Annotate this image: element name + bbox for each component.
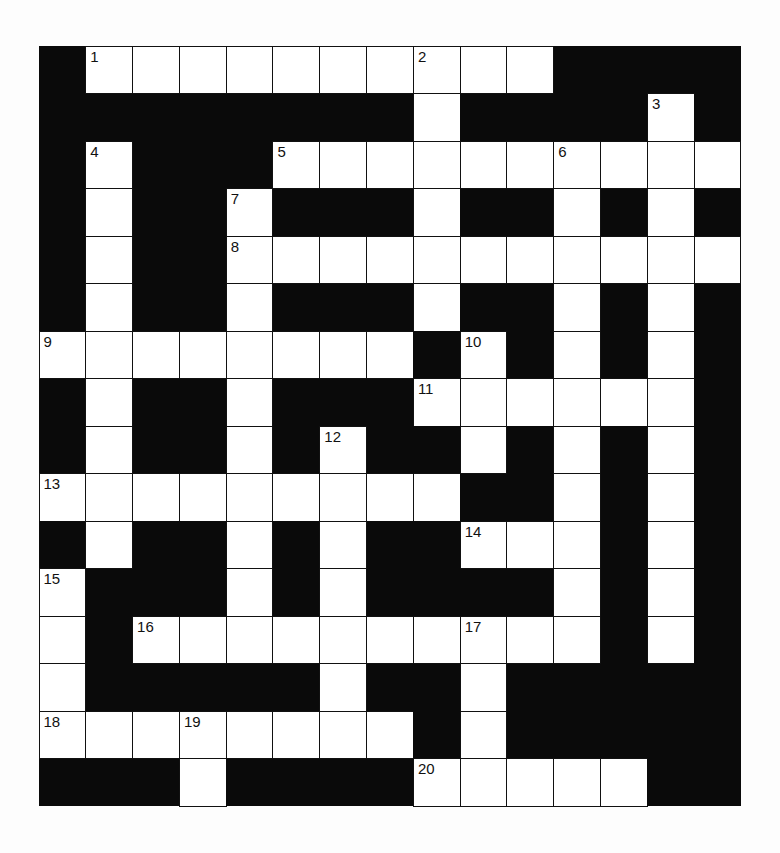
crossword-cell[interactable] [226, 711, 274, 760]
crossword-cell[interactable] [460, 46, 508, 95]
crossword-cell[interactable] [272, 711, 320, 760]
crossword-cell[interactable] [553, 473, 601, 522]
crossword-cell[interactable] [553, 236, 601, 285]
crossword-cell[interactable] [226, 521, 274, 570]
crossword-cell[interactable] [272, 236, 320, 285]
crossword-cell[interactable] [132, 473, 180, 522]
crossword-cell[interactable]: 4 [85, 141, 133, 190]
crossword-cell[interactable] [132, 331, 180, 380]
crossword-cell[interactable] [506, 378, 554, 427]
crossword-cell[interactable] [226, 283, 274, 332]
crossword-cell[interactable] [460, 141, 508, 190]
crossword-cell[interactable] [85, 378, 133, 427]
crossword-cell[interactable]: 19 [179, 711, 227, 760]
crossword-cell[interactable] [553, 758, 601, 807]
crossword-cell[interactable] [366, 46, 414, 95]
crossword-cell[interactable] [85, 473, 133, 522]
crossword-cell[interactable] [226, 378, 274, 427]
crossword-cell[interactable] [85, 521, 133, 570]
crossword-cell[interactable] [272, 331, 320, 380]
crossword-cell[interactable] [85, 426, 133, 475]
crossword-cell[interactable] [647, 426, 695, 475]
crossword-cell[interactable] [647, 188, 695, 237]
crossword-cell[interactable] [85, 711, 133, 760]
crossword-cell[interactable] [647, 616, 695, 665]
crossword-cell[interactable] [460, 663, 508, 712]
crossword-cell[interactable] [506, 46, 554, 95]
crossword-cell[interactable] [460, 711, 508, 760]
crossword-cell[interactable] [413, 283, 461, 332]
crossword-cell[interactable] [694, 236, 742, 285]
crossword-cell[interactable] [319, 141, 367, 190]
crossword-cell[interactable] [553, 616, 601, 665]
crossword-cell[interactable] [460, 758, 508, 807]
crossword-cell[interactable] [319, 331, 367, 380]
crossword-cell[interactable] [460, 236, 508, 285]
crossword-cell[interactable] [85, 236, 133, 285]
crossword-cell[interactable]: 12 [319, 426, 367, 475]
crossword-cell[interactable] [413, 473, 461, 522]
crossword-cell[interactable] [319, 521, 367, 570]
crossword-cell[interactable] [413, 93, 461, 142]
crossword-cell[interactable] [460, 378, 508, 427]
crossword-cell[interactable] [600, 141, 648, 190]
crossword-cell[interactable] [319, 663, 367, 712]
crossword-cell[interactable] [647, 283, 695, 332]
crossword-cell[interactable] [132, 46, 180, 95]
crossword-cell[interactable] [39, 616, 87, 665]
crossword-cell[interactable] [272, 616, 320, 665]
crossword-cell[interactable] [319, 236, 367, 285]
crossword-cell[interactable]: 17 [460, 616, 508, 665]
crossword-cell[interactable] [39, 663, 87, 712]
crossword-cell[interactable]: 14 [460, 521, 508, 570]
crossword-cell[interactable] [647, 521, 695, 570]
crossword-cell[interactable] [600, 758, 648, 807]
crossword-cell[interactable]: 1 [85, 46, 133, 95]
crossword-cell[interactable] [600, 378, 648, 427]
crossword-cell[interactable] [647, 331, 695, 380]
crossword-cell[interactable] [366, 711, 414, 760]
crossword-cell[interactable] [85, 188, 133, 237]
crossword-cell[interactable] [319, 473, 367, 522]
crossword-cell[interactable] [506, 521, 554, 570]
crossword-cell[interactable]: 10 [460, 331, 508, 380]
crossword-cell[interactable] [226, 426, 274, 475]
crossword-cell[interactable] [647, 378, 695, 427]
crossword-cell[interactable]: 20 [413, 758, 461, 807]
crossword-cell[interactable] [647, 141, 695, 190]
crossword-cell[interactable] [647, 473, 695, 522]
crossword-cell[interactable]: 5 [272, 141, 320, 190]
crossword-cell[interactable] [226, 331, 274, 380]
crossword-cell[interactable]: 15 [39, 568, 87, 617]
crossword-cell[interactable] [413, 141, 461, 190]
crossword-cell[interactable] [647, 568, 695, 617]
crossword-cell[interactable] [460, 426, 508, 475]
crossword-cell[interactable] [506, 236, 554, 285]
crossword-cell[interactable] [366, 236, 414, 285]
crossword-cell[interactable] [366, 331, 414, 380]
crossword-cell[interactable] [366, 473, 414, 522]
crossword-cell[interactable]: 7 [226, 188, 274, 237]
crossword-cell[interactable]: 16 [132, 616, 180, 665]
crossword-cell[interactable] [319, 711, 367, 760]
crossword-cell[interactable] [553, 331, 601, 380]
crossword-cell[interactable] [179, 473, 227, 522]
crossword-cell[interactable] [179, 758, 227, 807]
crossword-cell[interactable] [179, 331, 227, 380]
crossword-cell[interactable] [553, 188, 601, 237]
crossword-cell[interactable]: 13 [39, 473, 87, 522]
crossword-cell[interactable] [366, 141, 414, 190]
crossword-cell[interactable] [413, 616, 461, 665]
crossword-cell[interactable] [272, 473, 320, 522]
crossword-cell[interactable] [553, 283, 601, 332]
crossword-cell[interactable]: 18 [39, 711, 87, 760]
crossword-cell[interactable] [85, 331, 133, 380]
crossword-cell[interactable] [553, 378, 601, 427]
crossword-cell[interactable] [226, 46, 274, 95]
crossword-cell[interactable] [413, 236, 461, 285]
crossword-cell[interactable] [179, 616, 227, 665]
crossword-cell[interactable] [319, 46, 367, 95]
crossword-cell[interactable] [506, 141, 554, 190]
crossword-cell[interactable] [272, 46, 320, 95]
crossword-cell[interactable] [226, 473, 274, 522]
